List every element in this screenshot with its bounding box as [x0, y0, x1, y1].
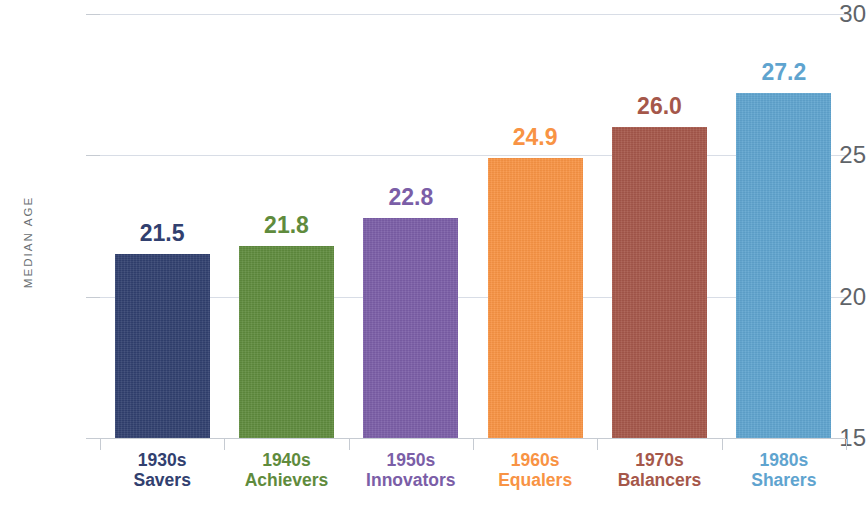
x-axis-end-tick: [100, 439, 101, 450]
bar-group[interactable]: 26.0: [612, 127, 707, 438]
bar-group[interactable]: 27.2: [736, 93, 831, 438]
bar-value-label: 21.8: [264, 214, 309, 237]
category-cohort: Innovators: [349, 470, 473, 490]
x-axis-end-tick: [846, 439, 847, 450]
x-tick-mark: [722, 439, 723, 450]
bar-1970s[interactable]: [612, 127, 707, 438]
x-tick-mark: [349, 439, 350, 450]
x-tick-mark: [597, 439, 598, 450]
y-tick-mark-30: [86, 14, 100, 15]
y-axis-title: MEDIAN AGE: [22, 142, 34, 342]
bar-group[interactable]: 22.8: [363, 218, 458, 438]
bar-group[interactable]: 21.5: [115, 254, 210, 438]
bar-value-label: 26.0: [637, 95, 682, 118]
x-tick-mark: [473, 439, 474, 450]
bar-1980s[interactable]: [736, 93, 831, 438]
bar-value-label: 22.8: [388, 186, 433, 209]
bar-1960s[interactable]: [488, 158, 583, 438]
bar-1930s[interactable]: [115, 254, 210, 438]
bar-1950s[interactable]: [363, 218, 458, 438]
category-cohort: Achievers: [224, 470, 348, 490]
category-cohort: Savers: [100, 470, 224, 490]
category-decade: 1950s: [349, 450, 473, 470]
category-decade: 1980s: [722, 450, 846, 470]
category-decade: 1960s: [473, 450, 597, 470]
plot-area: 21.521.822.824.926.027.2: [100, 0, 846, 439]
y-tick-mark-15: [86, 438, 100, 439]
x-category-label: 1970sBalancers: [597, 450, 721, 491]
x-category-label: 1960sEqualers: [473, 450, 597, 491]
x-category-label: 1930sSavers: [100, 450, 224, 491]
x-category-label: 1940sAchievers: [224, 450, 348, 491]
median-age-bar-chart: MEDIAN AGE 30252015 21.521.822.824.926.0…: [0, 0, 866, 515]
bar-group[interactable]: 24.9: [488, 158, 583, 438]
category-decade: 1970s: [597, 450, 721, 470]
x-tick-mark: [224, 439, 225, 450]
bar-1940s[interactable]: [239, 246, 334, 438]
category-cohort: Sharers: [722, 470, 846, 490]
x-category-label: 1980sSharers: [722, 450, 846, 491]
bar-value-label: 27.2: [761, 61, 806, 84]
category-cohort: Balancers: [597, 470, 721, 490]
x-category-label: 1950sInnovators: [349, 450, 473, 491]
bar-value-label: 24.9: [513, 126, 558, 149]
category-decade: 1940s: [224, 450, 348, 470]
bar-group[interactable]: 21.8: [239, 246, 334, 438]
bar-value-label: 21.5: [140, 222, 185, 245]
y-tick-mark-20: [86, 297, 100, 298]
category-decade: 1930s: [100, 450, 224, 470]
y-tick-mark-25: [86, 155, 100, 156]
category-cohort: Equalers: [473, 470, 597, 490]
